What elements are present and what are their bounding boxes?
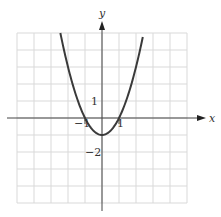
x-axis-label: x xyxy=(209,112,216,125)
parabola-chart: x y 1 −1 1 −2 xyxy=(0,0,221,217)
x-axis-arrow-icon xyxy=(197,115,206,121)
y-axis-arrow-icon xyxy=(99,21,105,30)
y-tick-label-1: 1 xyxy=(91,95,98,108)
x-axis: x xyxy=(7,112,216,125)
y-axis: y xyxy=(98,7,106,211)
y-axis-label: y xyxy=(98,7,106,20)
x-tick-label-1: 1 xyxy=(117,117,124,130)
y-tick-label-neg2: −2 xyxy=(85,146,101,159)
x-tick-label-neg1: −1 xyxy=(74,117,90,130)
